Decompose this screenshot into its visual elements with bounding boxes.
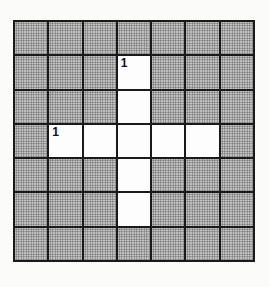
grid-cell-shaded (15, 228, 47, 260)
grid-cell-shaded (221, 228, 253, 260)
grid-cell-shaded (49, 228, 81, 260)
grid-cell-shaded (118, 228, 150, 260)
grid-cell-shaded (84, 22, 116, 54)
grid-cell-shaded (186, 56, 218, 88)
clue-number: 1 (121, 57, 128, 69)
grid-cell-shaded (49, 193, 81, 225)
grid-cell-shaded (221, 56, 253, 88)
grid-cell-shaded (221, 159, 253, 191)
grid-cell-shaded (221, 193, 253, 225)
grid-cell-shaded (49, 159, 81, 191)
grid-cell-shaded (186, 159, 218, 191)
grid-cell-shaded (186, 22, 218, 54)
grid-cell-shaded (15, 159, 47, 191)
grid-cell-shaded (15, 193, 47, 225)
grid-cell-shaded (152, 56, 184, 88)
grid-cell-shaded (186, 228, 218, 260)
clue-number: 1 (52, 126, 59, 138)
grid-cell-shaded (49, 22, 81, 54)
grid-cell-shaded (15, 125, 47, 157)
grid-cell-white[interactable]: 1 (49, 125, 81, 157)
grid-cell-shaded (152, 228, 184, 260)
grid-cell-white[interactable] (84, 125, 116, 157)
grid-cell-shaded (152, 159, 184, 191)
grid-cell-shaded (15, 91, 47, 123)
grid-cell-shaded (84, 91, 116, 123)
crossword-grid: 11 (13, 20, 255, 262)
grid-cell-shaded (152, 22, 184, 54)
grid-cell-shaded (84, 193, 116, 225)
grid-cell-white[interactable] (118, 125, 150, 157)
grid-cell-shaded (221, 91, 253, 123)
grid-cell-shaded (118, 22, 150, 54)
grid-cell-shaded (221, 125, 253, 157)
grid-cell-shaded (15, 22, 47, 54)
grid-cell-white[interactable] (118, 159, 150, 191)
grid-cell-shaded (49, 91, 81, 123)
grid-cell-shaded (186, 193, 218, 225)
grid-cell-shaded (84, 56, 116, 88)
grid-cell-shaded (152, 91, 184, 123)
grid-cell-shaded (84, 159, 116, 191)
grid-cell-white[interactable] (186, 125, 218, 157)
grid-cell-white[interactable] (118, 193, 150, 225)
grid-cell-shaded (221, 22, 253, 54)
grid-cell-white[interactable]: 1 (118, 56, 150, 88)
grid-cell-white[interactable] (118, 91, 150, 123)
grid-cell-shaded (186, 91, 218, 123)
grid-cell-shaded (15, 56, 47, 88)
grid-cell-shaded (49, 56, 81, 88)
grid-cell-shaded (152, 193, 184, 225)
grid-cell-white[interactable] (152, 125, 184, 157)
grid-cell-shaded (84, 228, 116, 260)
